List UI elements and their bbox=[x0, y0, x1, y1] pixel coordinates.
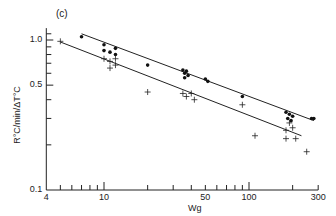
data-point-dot bbox=[181, 68, 185, 72]
data-point-dot bbox=[146, 63, 150, 67]
scatter-chart: (c) Wg R°C/min/ΔT°C 0.10.51.041050100300 bbox=[0, 0, 336, 216]
data-point-dot bbox=[206, 80, 210, 84]
y-axis-label: R°C/min/ΔT°C bbox=[12, 86, 22, 144]
data-point-dot bbox=[241, 95, 245, 99]
panel-label: (c) bbox=[56, 8, 68, 19]
data-point-dot bbox=[185, 69, 189, 73]
data-point-dot bbox=[291, 114, 295, 118]
data-point-dot bbox=[312, 117, 316, 121]
data-point-dot bbox=[286, 117, 290, 121]
data-point-dot bbox=[288, 112, 292, 116]
data-point-dot bbox=[108, 50, 112, 54]
plot-area bbox=[0, 0, 336, 216]
x-tick-label: 10 bbox=[92, 192, 116, 202]
x-tick-label: 100 bbox=[237, 192, 261, 202]
data-point-dot bbox=[186, 74, 190, 78]
data-point-dot bbox=[114, 47, 118, 51]
data-point-dot bbox=[80, 35, 84, 39]
x-tick-label: 300 bbox=[306, 192, 330, 202]
x-axis-label: Wg bbox=[188, 203, 202, 213]
data-point-dot bbox=[102, 43, 106, 47]
y-tick-label: 0.5 bbox=[18, 79, 42, 89]
data-point-dot bbox=[102, 49, 106, 53]
data-point-dot bbox=[284, 110, 288, 114]
lower-fit bbox=[60, 42, 301, 136]
data-point-dot bbox=[183, 76, 187, 80]
x-tick-label: 4 bbox=[34, 192, 58, 202]
y-tick-label: 1.0 bbox=[18, 34, 42, 44]
x-tick-label: 50 bbox=[193, 192, 217, 202]
